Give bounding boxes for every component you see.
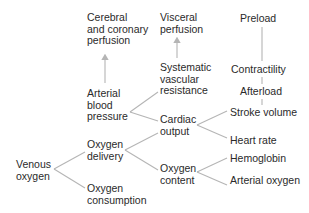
node-oxygen-content: Oxygen content xyxy=(160,163,196,186)
node-venous-oxygen: Venous oxygen xyxy=(16,159,51,182)
node-visceral-perfusion: Visceral perfusion xyxy=(160,12,203,35)
node-contractility: Contractility xyxy=(231,64,286,76)
node-stroke-volume: Stroke volume xyxy=(230,107,297,119)
node-systematic-vascular-resistance: Systematic vascular resistance xyxy=(160,62,211,97)
node-heart-rate: Heart rate xyxy=(230,135,277,147)
node-oxygen-delivery: Oxygen delivery xyxy=(87,139,123,162)
node-cerebral-coronary-perfusion: Cerebral and coronary perfusion xyxy=(87,12,148,47)
diagram-canvas: Cerebral and coronary perfusion Visceral… xyxy=(0,0,309,213)
node-hemoglobin: Hemoglobin xyxy=(230,153,286,165)
node-arterial-oxygen: Arterial oxygen xyxy=(230,175,300,187)
node-afterload: Afterload xyxy=(240,86,282,98)
node-oxygen-consumption: Oxygen consumption xyxy=(87,183,147,206)
node-preload: Preload xyxy=(240,13,276,25)
node-cardiac-output: Cardiac output xyxy=(160,114,196,137)
node-arterial-blood-pressure: Arterial blood pressure xyxy=(87,88,128,123)
